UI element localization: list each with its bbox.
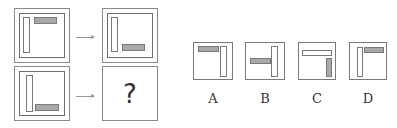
option-d-figure[interactable] <box>349 42 387 80</box>
option-a-figure[interactable] <box>193 42 233 80</box>
white-vertical-bar <box>23 17 30 53</box>
option-c-figure[interactable] <box>298 42 336 80</box>
arrow-icon <box>76 96 94 97</box>
question-mark: ? <box>103 81 157 107</box>
white-vertical-bar <box>220 46 227 77</box>
white-vertical-bar <box>357 47 363 77</box>
option-b-figure[interactable] <box>245 42 285 80</box>
white-vertical-bar <box>26 75 33 112</box>
gray-horizontal-bar <box>250 58 271 64</box>
option-d-label[interactable]: D <box>358 91 378 106</box>
white-vertical-bar <box>271 46 278 77</box>
panel-bottom-right: ? <box>102 66 158 121</box>
panel-inner-frame <box>107 13 153 58</box>
panel-bottom-left <box>14 66 70 121</box>
panel-top-right <box>102 8 158 63</box>
arrow-icon <box>76 37 94 38</box>
gray-horizontal-bar <box>364 47 384 53</box>
option-a-label[interactable]: A <box>203 91 223 106</box>
panel-top-left <box>14 8 70 63</box>
panel-inner-frame <box>19 13 65 58</box>
white-horizontal-bar <box>302 50 332 56</box>
gray-vertical-bar <box>326 58 332 77</box>
panel-inner-frame <box>19 71 65 116</box>
option-b-label[interactable]: B <box>255 91 275 106</box>
option-c-label[interactable]: C <box>307 91 327 106</box>
gray-horizontal-bar <box>122 44 145 51</box>
gray-horizontal-bar <box>34 17 57 24</box>
white-vertical-bar <box>111 17 118 52</box>
gray-horizontal-bar <box>35 104 59 111</box>
gray-horizontal-bar <box>198 46 219 52</box>
